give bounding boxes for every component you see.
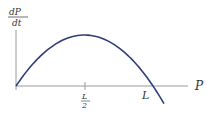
logistic-growth-diagram: dP dt P L 2 L bbox=[0, 0, 207, 115]
y-label-numerator: dP bbox=[9, 7, 22, 17]
tick-label-half-numerator: L bbox=[81, 92, 87, 101]
x-axis-label: P bbox=[194, 79, 204, 93]
tick-label-half-denominator: 2 bbox=[81, 101, 87, 110]
tick-label-l: L bbox=[141, 89, 149, 102]
y-label-denominator: dt bbox=[12, 18, 22, 28]
